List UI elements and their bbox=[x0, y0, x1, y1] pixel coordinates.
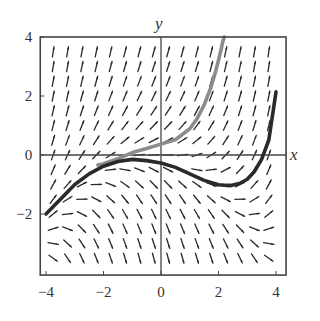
slope-arrowhead bbox=[269, 92, 271, 94]
slope-arrowhead bbox=[228, 200, 230, 202]
slope-arrowhead bbox=[254, 77, 256, 79]
slope-arrowhead bbox=[198, 216, 200, 218]
x-axis-label: x bbox=[289, 145, 298, 164]
slope-arrowhead bbox=[84, 215, 86, 217]
slope-arrowhead bbox=[141, 186, 143, 188]
slope-arrowhead bbox=[199, 185, 201, 187]
slope-arrowhead bbox=[154, 63, 156, 65]
slope-arrowhead bbox=[141, 170, 143, 172]
slope-arrowhead bbox=[170, 170, 172, 172]
slope-arrowhead bbox=[211, 260, 213, 262]
slope-arrowhead bbox=[226, 77, 228, 79]
slope-arrowhead bbox=[97, 230, 99, 232]
slope-arrowhead bbox=[68, 260, 70, 262]
y-tick-label: 0 bbox=[25, 147, 33, 163]
slope-arrowhead bbox=[154, 77, 156, 79]
slope-arrowhead bbox=[227, 215, 229, 217]
y-tick-label: 2 bbox=[25, 88, 33, 104]
slope-arrowhead bbox=[198, 201, 200, 203]
slope-arrowhead bbox=[197, 63, 199, 65]
slope-arrowhead bbox=[256, 229, 258, 231]
slope-arrowhead bbox=[111, 107, 113, 109]
slope-arrowhead bbox=[240, 63, 242, 65]
slope-arrowhead bbox=[183, 216, 185, 218]
slope-arrowhead bbox=[155, 186, 157, 188]
slope-arrowhead bbox=[69, 197, 71, 199]
slope-arrowhead bbox=[227, 230, 229, 232]
slope-arrowhead bbox=[83, 151, 85, 153]
x-tick-label: −2 bbox=[96, 284, 112, 300]
slope-arrowhead bbox=[111, 122, 113, 124]
slope-arrowhead bbox=[211, 48, 213, 50]
slope-arrowhead bbox=[67, 107, 69, 109]
slope-arrowhead bbox=[269, 151, 271, 153]
slope-arrowhead bbox=[242, 198, 244, 200]
slope-arrowhead bbox=[257, 213, 259, 215]
slope-arrowhead bbox=[140, 201, 142, 203]
slope-arrowhead bbox=[111, 48, 113, 50]
slope-arrowhead bbox=[183, 107, 185, 109]
slope-arrowhead bbox=[241, 260, 243, 262]
slope-arrowhead bbox=[69, 245, 71, 247]
slope-arrowhead bbox=[97, 122, 99, 124]
slope-arrowhead bbox=[183, 77, 185, 79]
slope-arrowhead bbox=[226, 92, 228, 94]
x-tick-label: 0 bbox=[157, 284, 165, 300]
slope-arrowhead bbox=[140, 246, 142, 248]
slope-arrowhead bbox=[96, 77, 98, 79]
slope-arrowhead bbox=[54, 181, 56, 183]
slope-arrowhead bbox=[53, 48, 55, 50]
slope-arrowhead bbox=[169, 107, 171, 109]
slope-arrowhead bbox=[240, 48, 242, 50]
slope-arrowhead bbox=[126, 216, 128, 218]
slope-arrowhead bbox=[240, 77, 242, 79]
slope-arrowhead bbox=[240, 92, 242, 94]
slope-arrowhead bbox=[97, 260, 99, 262]
slope-arrowhead bbox=[213, 152, 215, 154]
slope-arrowhead bbox=[184, 122, 186, 124]
slope-arrowhead bbox=[256, 197, 258, 199]
slope-arrowhead bbox=[98, 152, 100, 154]
axis-ticks bbox=[40, 37, 276, 275]
slope-arrowhead bbox=[140, 92, 142, 94]
slope-arrowhead bbox=[168, 48, 170, 50]
slope-arrowhead bbox=[55, 227, 57, 229]
x-tick-label: 4 bbox=[272, 284, 280, 300]
slope-arrowhead bbox=[183, 260, 185, 262]
slope-arrowhead bbox=[96, 63, 98, 65]
slope-arrowhead bbox=[254, 63, 256, 65]
slope-arrowhead bbox=[199, 169, 201, 171]
slope-arrowhead bbox=[225, 48, 227, 50]
slope-arrowhead bbox=[98, 200, 100, 202]
slope-arrowhead bbox=[96, 48, 98, 50]
slope-arrowhead bbox=[169, 122, 171, 124]
slope-arrowhead bbox=[240, 122, 242, 124]
x-tick-label: 2 bbox=[215, 284, 223, 300]
slope-arrowhead bbox=[67, 92, 69, 94]
slope-arrowhead bbox=[68, 166, 70, 168]
slope-arrowhead bbox=[111, 245, 113, 247]
slope-arrowhead bbox=[113, 168, 115, 170]
slope-arrowhead bbox=[184, 186, 186, 188]
slope-arrowhead bbox=[67, 48, 69, 50]
slope-arrowhead bbox=[112, 152, 114, 154]
slope-arrowhead bbox=[111, 63, 113, 65]
slope-arrowhead bbox=[198, 137, 200, 139]
slope-arrowhead bbox=[53, 122, 55, 124]
slope-arrowhead bbox=[125, 246, 127, 248]
slope-arrowhead bbox=[53, 136, 55, 138]
slope-arrowhead bbox=[126, 122, 128, 124]
slope-arrowhead bbox=[53, 63, 55, 65]
slope-arrowhead bbox=[111, 77, 113, 79]
slope-arrowhead bbox=[141, 138, 143, 140]
slope-arrowhead bbox=[156, 138, 158, 140]
slope-arrowhead bbox=[140, 216, 142, 218]
slope-arrowhead bbox=[83, 245, 85, 247]
slope-arrowhead bbox=[168, 77, 170, 79]
slope-arrowhead bbox=[112, 137, 114, 139]
slope-arrowhead bbox=[241, 167, 243, 169]
slope-arrowhead bbox=[168, 63, 170, 65]
slope-arrowhead bbox=[197, 231, 199, 233]
slope-arrowhead bbox=[197, 260, 199, 262]
slope-arrowhead bbox=[113, 185, 115, 187]
